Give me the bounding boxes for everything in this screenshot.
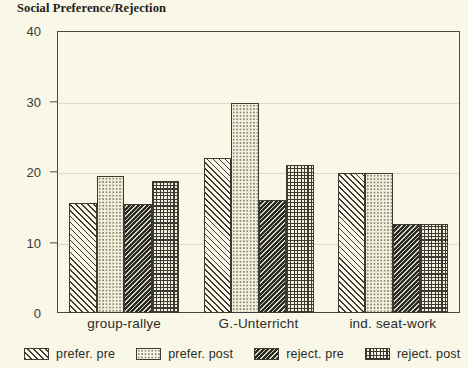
bar-reject-post-g--unterricht — [286, 165, 314, 313]
legend-swatch-cross-grid — [365, 348, 390, 360]
x-axis-labels: group-rallyeG.-Unterrichtind. seat-work — [57, 316, 460, 338]
bar-prefer-post-g--unterricht — [231, 103, 259, 313]
y-axis: 010203040 — [0, 0, 57, 344]
bar-reject-pre-g--unterricht — [259, 200, 287, 314]
bars-layer — [57, 31, 460, 313]
bar-reject-pre-ind-seat-work — [393, 224, 421, 313]
legend-item-prefer-pre: prefer. pre — [24, 347, 115, 361]
legend-item-reject-post: reject. post — [365, 347, 461, 361]
x-axis-category-label: group-rallye — [87, 316, 161, 331]
bar-reject-pre-group-rallye — [124, 204, 152, 313]
y-axis-tick-label: 10 — [27, 235, 41, 250]
legend-label: reject. post — [397, 347, 461, 361]
legend-swatch-diagonal-hatch-light — [24, 348, 49, 360]
bar-prefer-post-group-rallye — [97, 176, 125, 313]
y-axis-tick-label: 0 — [34, 306, 41, 321]
x-axis-category-label: G.-Unterricht — [219, 316, 299, 331]
chart-legend: prefer. preprefer. postreject. prereject… — [24, 344, 468, 364]
bar-reject-post-group-rallye — [152, 181, 180, 313]
y-axis-tick-label: 30 — [27, 94, 41, 109]
legend-swatch-fine-dots — [136, 348, 161, 360]
bar-prefer-pre-ind-seat-work — [338, 173, 366, 313]
y-axis-tick-label: 20 — [27, 165, 41, 180]
legend-item-reject-pre: reject. pre — [254, 347, 344, 361]
y-axis-tick-label: 40 — [27, 24, 41, 39]
legend-swatch-dense-diagonal-dark — [254, 348, 279, 360]
bar-prefer-pre-g--unterricht — [204, 158, 232, 313]
bar-prefer-post-ind-seat-work — [365, 173, 393, 313]
bar-reject-post-ind-seat-work — [420, 224, 448, 313]
bar-prefer-pre-group-rallye — [69, 203, 97, 313]
legend-label: reject. pre — [286, 347, 344, 361]
legend-label: prefer. post — [168, 347, 233, 361]
x-axis-category-label: ind. seat-work — [349, 316, 436, 331]
legend-label: prefer. pre — [56, 347, 115, 361]
legend-item-prefer-post: prefer. post — [136, 347, 233, 361]
chart-root: Social Preference/Rejection 010203040 gr… — [0, 0, 468, 368]
